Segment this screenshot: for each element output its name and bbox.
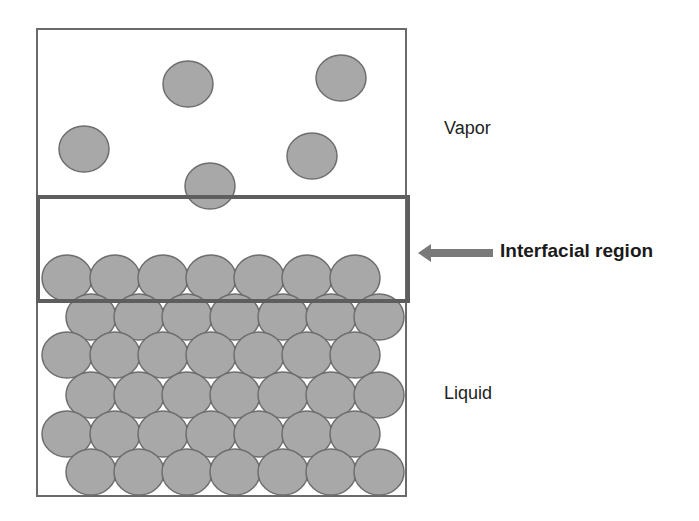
left-arrow-icon — [418, 244, 493, 262]
vapor-label: Vapor — [444, 118, 491, 139]
liquid-molecules — [42, 255, 404, 495]
liquid-molecule — [306, 449, 356, 495]
liquid-molecule — [210, 449, 260, 495]
liquid-molecule — [42, 332, 92, 378]
liquid-molecule — [90, 332, 140, 378]
liquid-molecule — [234, 332, 284, 378]
liquid-molecule — [114, 449, 164, 495]
vapor-molecules — [59, 55, 366, 209]
interfacial-region-label: Interfacial region — [500, 240, 653, 262]
liquid-molecule — [330, 332, 380, 378]
liquid-molecule — [354, 449, 404, 495]
vapor-molecule — [59, 126, 109, 172]
liquid-molecule — [282, 332, 332, 378]
liquid-molecule — [186, 332, 236, 378]
liquid-molecule — [162, 449, 212, 495]
liquid-molecule — [258, 449, 308, 495]
liquid-molecule — [138, 332, 188, 378]
vapor-molecule — [163, 61, 213, 107]
vapor-molecule — [287, 133, 337, 179]
liquid-label: Liquid — [444, 383, 492, 404]
vapor-molecule — [316, 55, 366, 101]
vapor-molecule — [185, 163, 235, 209]
liquid-molecule — [66, 449, 116, 495]
